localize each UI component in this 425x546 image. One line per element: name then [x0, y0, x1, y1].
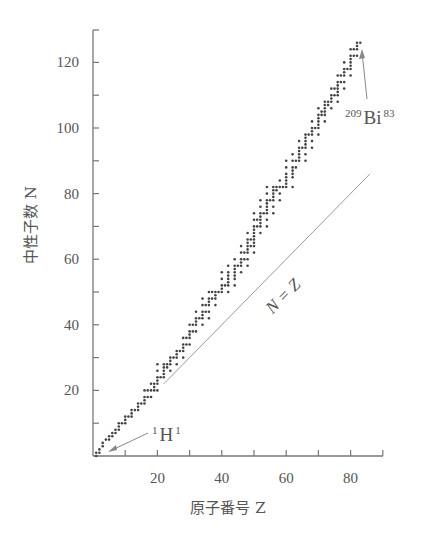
n-equals-z-label: N = Z: [261, 275, 304, 318]
nuclide-point: [253, 219, 256, 222]
nuclide-point: [166, 366, 169, 369]
nuclide-point: [291, 153, 294, 156]
nuclide-point: [163, 376, 166, 379]
nuclide-point: [330, 94, 333, 97]
nuclide-point: [340, 81, 343, 84]
nuclide-point: [343, 81, 346, 84]
nuclide-point: [233, 258, 236, 261]
nuclide-point: [330, 87, 333, 90]
nuclide-point: [343, 71, 346, 74]
nuclide-point: [214, 291, 217, 294]
nuclide-point: [317, 123, 320, 126]
nuclide-point: [317, 107, 320, 110]
nuclide-point: [285, 186, 288, 189]
nuclide-point: [349, 58, 352, 61]
nuclide-point: [298, 156, 301, 159]
nuclide-point: [246, 258, 249, 261]
nuclide-point: [217, 291, 220, 294]
nuclide-point: [201, 310, 204, 313]
bi209-label: 209Bi83: [345, 107, 395, 128]
nuclide-point: [182, 347, 185, 350]
nuclide-point: [356, 41, 359, 44]
nuclide-point: [279, 192, 282, 195]
nuclide-point: [175, 353, 178, 356]
nuclide-point: [153, 389, 156, 392]
nuclide-point: [185, 337, 188, 340]
nuclide-point: [163, 363, 166, 366]
nuclide-point: [333, 87, 336, 90]
nuclide-point: [295, 166, 298, 169]
nuclide-point: [259, 222, 262, 225]
nuclide-point: [343, 87, 346, 90]
chart: 20406080 20406080100120 原子番号 Z 中性子数 N N …: [0, 0, 425, 546]
nuclide-point: [311, 130, 314, 133]
nuclide-point: [324, 104, 327, 107]
nuclide-point: [195, 330, 198, 333]
nuclide-point: [166, 363, 169, 366]
x-tick-labels: 20406080: [150, 470, 358, 486]
nuclide-point: [137, 402, 140, 405]
nuclide-point: [353, 55, 356, 58]
nuclide-point: [259, 205, 262, 208]
nuclide-point: [188, 337, 191, 340]
nuclide-point: [336, 91, 339, 94]
nuclide-point: [279, 186, 282, 189]
nuclide-point: [272, 199, 275, 202]
nuclide-point: [221, 287, 224, 290]
nuclide-point: [349, 55, 352, 58]
nuclide-point: [291, 176, 294, 179]
nuclide-point: [291, 186, 294, 189]
nuclide-point: [311, 140, 314, 143]
nuclide-point: [272, 205, 275, 208]
nuclide-point: [221, 291, 224, 294]
nuclide-point: [343, 68, 346, 71]
nuclide-point: [101, 442, 104, 445]
nuclide-point: [214, 294, 217, 297]
nuclide-point: [198, 317, 201, 320]
nuclide-point: [233, 265, 236, 268]
nuclide-point: [346, 68, 349, 71]
nuclide-point: [324, 101, 327, 104]
nuclide-point: [211, 291, 214, 294]
nuclide-point: [195, 317, 198, 320]
nuclide-point: [253, 245, 256, 248]
nuclide-point: [327, 104, 330, 107]
nuclide-point: [240, 251, 243, 254]
nuclide-point: [304, 153, 307, 156]
nuclide-point: [188, 333, 191, 336]
nuclide-point: [285, 173, 288, 176]
nuclide-point: [266, 212, 269, 215]
nuclide-point: [137, 409, 140, 412]
nuclide-point: [124, 415, 127, 418]
nuclide-point: [253, 238, 256, 241]
nuclide-point: [188, 330, 191, 333]
nuclide-point: [146, 389, 149, 392]
nuclide-point: [130, 409, 133, 412]
nuclide-point: [246, 248, 249, 251]
nuclide-point: [182, 356, 185, 359]
nuclide-point: [233, 268, 236, 271]
nuclide-point: [150, 383, 153, 386]
nuclide-point: [349, 68, 352, 71]
nuclide-point: [185, 343, 188, 346]
y-axis-title: 中性子数 N: [22, 186, 40, 264]
nuclide-point: [201, 297, 204, 300]
nuclide-point: [304, 133, 307, 136]
nuclide-point: [227, 265, 230, 268]
nuclide-point: [156, 376, 159, 379]
nuclide-point: [279, 199, 282, 202]
nuclide-point: [240, 265, 243, 268]
nuclide-point: [285, 160, 288, 163]
nuclide-point: [195, 310, 198, 313]
nuclide-point: [330, 97, 333, 100]
x-ticks: [125, 450, 383, 456]
nuclide-point: [250, 238, 253, 241]
nuclide-point: [317, 133, 320, 136]
nuclide-point: [336, 87, 339, 90]
x-tick-label: 20: [150, 470, 165, 486]
nuclide-point: [240, 271, 243, 274]
nuclide-point: [195, 320, 198, 323]
nuclide-point: [240, 258, 243, 261]
nuclide-point: [175, 356, 178, 359]
nuclide-point: [317, 127, 320, 130]
